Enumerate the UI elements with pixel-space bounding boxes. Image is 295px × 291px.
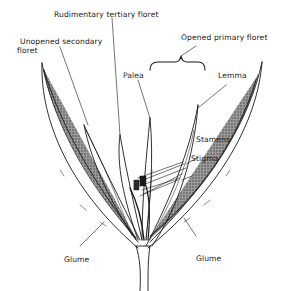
- label-rudimentary-tertiary-floret: Rudimentary tertiary floret: [54, 11, 159, 19]
- label-stamens: Stamens: [196, 136, 230, 144]
- label-palea: Palea: [123, 72, 144, 80]
- label-unopened-secondary-floret-2: floret: [17, 47, 38, 55]
- stem: [136, 246, 150, 291]
- label-glume-left: Glume: [64, 256, 89, 264]
- label-glume-right: Glume: [196, 255, 221, 263]
- label-stigma: Stigma: [191, 155, 218, 163]
- label-opened-primary-floret: Opened primary floret: [181, 34, 267, 42]
- label-lemma: Lemma: [218, 72, 247, 80]
- label-unopened-secondary-floret-1: Unopened secondary: [20, 38, 102, 46]
- primary-floret-bracket: [150, 56, 205, 70]
